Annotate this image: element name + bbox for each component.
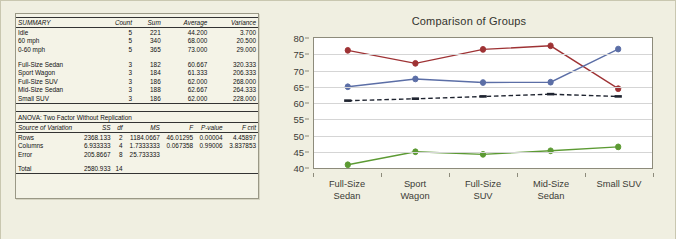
anova-section: ANOVA: Two Factor Without Replication So…: [16, 111, 258, 176]
cell-ms: 1.7333333: [125, 141, 162, 150]
anova-col-pvalue: P-value: [195, 122, 224, 132]
plot-area-wrapper: 807570656055504540 Full-SizeSedanSportWa…: [283, 37, 655, 189]
data-point: [616, 144, 621, 150]
cell-sum: 340: [134, 37, 163, 46]
cell-count: 3: [99, 60, 134, 69]
y-tick-label: 65: [293, 81, 304, 92]
series-average: [344, 93, 622, 102]
cell-f: [162, 165, 195, 174]
cell-average: 62.667: [163, 86, 210, 95]
summary-header-row: SUMMARY Count Sum Average Variance: [16, 18, 258, 28]
cell-average: 62.000: [163, 77, 210, 86]
y-tick-label: 75: [293, 49, 304, 60]
cell-sum: 184: [134, 68, 163, 77]
cell-count: 5: [99, 45, 134, 54]
cell-count: 3: [99, 77, 134, 86]
cell-average: 73.000: [163, 45, 210, 54]
cell-label: Idle: [16, 28, 99, 37]
x-tick-mark: [381, 173, 382, 177]
cell-variance: 320.333: [209, 60, 258, 69]
x-tick-label: Full-SizeSedan: [329, 179, 365, 202]
cell-variance: 29.000: [209, 45, 258, 54]
cell-ss: 2580.933: [79, 165, 112, 174]
cell-count: 3: [99, 94, 134, 103]
plot-area: [313, 37, 653, 169]
gridline: [314, 54, 652, 55]
table-row: Small SUV 3 186 62.000 228.000: [16, 94, 258, 103]
data-point: [344, 99, 351, 102]
summary-col-sum: Sum: [134, 18, 163, 28]
cell-label: Full-Size Sedan: [16, 60, 99, 69]
cell-ms: 1184.0667: [125, 132, 162, 141]
gridline: [314, 136, 652, 137]
summary-col-count: Count: [99, 18, 134, 28]
data-point: [615, 95, 622, 98]
x-tick-label: Small SUV: [597, 179, 642, 191]
table-row: Idle 5 221 44.200 3.700: [16, 28, 258, 37]
cell-sum: 186: [134, 77, 163, 86]
cell-average: 61.333: [163, 68, 210, 77]
data-point: [548, 79, 553, 85]
data-point: [479, 95, 486, 98]
screenshot-root: SUMMARY Count Sum Average Variance Idle …: [0, 0, 676, 223]
cell-variance: 206.333: [209, 68, 258, 77]
anova-col-ss: SS: [79, 122, 112, 132]
anova-table: Source of Variation SS df MS F P-value F…: [16, 122, 258, 176]
table-row-total: Total 2580.933 14: [16, 165, 258, 174]
cell-sum: 365: [134, 45, 163, 54]
table-row: 0-60 mph 5 365 73.000 29.000: [16, 45, 258, 54]
y-tick-mark: [305, 38, 309, 39]
cell-count: 3: [99, 86, 134, 95]
y-tick-label: 80: [293, 33, 304, 44]
table-row: Sport Wagon 3 184 61.333 206.333: [16, 68, 258, 77]
summary-col-average: Average: [163, 18, 210, 28]
cell-fcrit: 3.837853: [225, 141, 258, 150]
y-tick-mark: [305, 86, 309, 87]
x-tick-mark: [449, 173, 450, 177]
gridline: [314, 87, 652, 88]
y-tick-label: 40: [293, 163, 304, 174]
cell-f: [162, 150, 195, 159]
cell-source: Rows: [16, 132, 79, 141]
cell-average: 44.200: [163, 28, 210, 37]
y-tick-mark: [305, 119, 309, 120]
y-tick-mark: [305, 151, 309, 152]
cell-df: 14: [113, 165, 125, 174]
summary-table: SUMMARY Count Sum Average Variance Idle …: [16, 17, 258, 106]
table-row: Columns 6.933333 4 1.7333333 0.067358 0.…: [16, 141, 258, 150]
cell-fcrit: 4.45897: [225, 132, 258, 141]
cell-source: Columns: [16, 141, 79, 150]
gridline: [314, 152, 652, 153]
cell-count: 3: [99, 68, 134, 77]
cell-average: 60.667: [163, 60, 210, 69]
y-axis: 807570656055504540: [283, 37, 309, 169]
x-tick-mark: [313, 173, 314, 177]
x-tick-label: SportWagon: [400, 179, 429, 202]
anova-col-f: F: [162, 122, 195, 132]
y-tick-label: 50: [293, 130, 304, 141]
cell-ms: [125, 165, 162, 174]
data-point: [547, 93, 554, 96]
cell-label: Mid-Size Sedan: [16, 86, 99, 95]
x-tick-mark: [653, 173, 654, 177]
cell-sum: 182: [134, 60, 163, 69]
table-row: Full-Size Sedan 3 182 60.667 320.333: [16, 60, 258, 69]
comparison-chart: Comparison of Groups 807570656055504540 …: [273, 7, 665, 217]
data-point: [345, 47, 350, 53]
chart-title: Comparison of Groups: [273, 7, 665, 27]
summary-col-label: SUMMARY: [16, 18, 99, 28]
anova-col-ms: MS: [125, 122, 162, 132]
cell-label: Small SUV: [16, 94, 99, 103]
x-tick-mark: [517, 173, 518, 177]
cell-source: Error: [16, 150, 79, 159]
cell-count: 5: [99, 28, 134, 37]
statistics-panel: SUMMARY Count Sum Average Variance Idle …: [15, 13, 259, 199]
anova-col-fcrit: F crit: [225, 122, 258, 132]
y-tick-label: 55: [293, 114, 304, 125]
data-point: [480, 46, 485, 52]
summary-col-variance: Variance: [209, 18, 258, 28]
x-tick-label: Full-SizeSUV: [465, 179, 501, 202]
cell-variance: 268.000: [209, 77, 258, 86]
cell-ss: 205.8667: [79, 150, 112, 159]
anova-col-source: Source of Variation: [16, 122, 79, 132]
